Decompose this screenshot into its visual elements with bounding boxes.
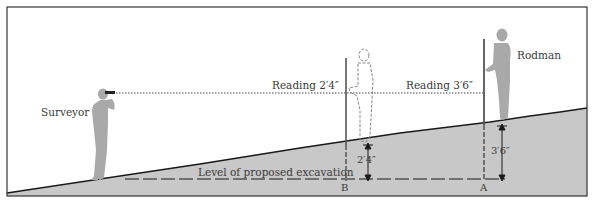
surveyor-figure [91,89,115,181]
depth-a-label: 3′6″ [491,145,510,156]
surveyor-label: Surveyor [41,106,90,118]
rodman-figure [485,29,511,121]
rodman-label: Rodman [517,49,561,61]
point-a-label: A [479,182,488,193]
depth-b-label: 2′4″ [357,154,376,165]
surveying-diagram: Surveyor Rodman Reading 2′4″ Reading 3′6… [0,0,594,203]
excavation-label: Level of proposed excavation [198,166,354,178]
telescope-icon [105,91,115,94]
reading-b-label: Reading 2′4″ [272,79,339,91]
ghost-rodman-figure [349,49,373,142]
reading-a-label: Reading 3′6″ [406,79,473,91]
point-b-label: B [341,182,348,193]
